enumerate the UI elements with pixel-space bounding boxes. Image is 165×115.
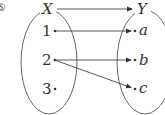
problem-marker: ⑤ [0,1,6,14]
mapping-diagram: ⑤ X Y 1 2 3 a b c [0,0,165,115]
y-element-a: a [139,21,148,39]
y-element-b: b [139,51,149,69]
x-element-3: 3 [42,80,52,98]
set-x-label: X [41,0,54,18]
y-dot-a [134,30,137,33]
y-dot-c [134,88,137,91]
x-dot-3 [54,88,57,91]
x-dot-1 [54,30,57,33]
y-element-c: c [139,79,148,97]
y-dot-b [134,59,137,62]
x-element-2: 2 [42,51,52,69]
arrow-2-to-c [56,61,131,88]
x-element-1: 1 [42,22,52,40]
